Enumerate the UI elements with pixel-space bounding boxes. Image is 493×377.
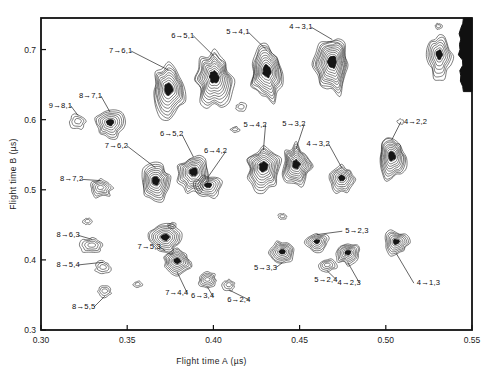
contour-island: [222, 279, 235, 291]
contour-island-unlabeled: [133, 281, 143, 288]
island-label: 7→6,2: [105, 141, 128, 150]
contour-core: [345, 250, 351, 255]
contour-island: [282, 141, 313, 187]
label-leader-line: [127, 146, 156, 168]
contour-island: [304, 234, 329, 253]
island-label: 4→3,1: [289, 22, 312, 31]
contour-island: [164, 248, 192, 276]
label-leader-line: [193, 36, 214, 57]
contour-core: [279, 249, 286, 254]
contour-level: [437, 25, 441, 28]
label-leader-line: [311, 27, 332, 39]
contour-level: [278, 214, 287, 220]
island-label: 6→5,2: [160, 129, 183, 138]
contour-level: [435, 23, 442, 29]
contour-island: [79, 237, 102, 252]
contour-level: [72, 116, 84, 126]
contour-level: [226, 282, 231, 286]
contour-island: [142, 162, 171, 202]
contour-island-unlabeled: [435, 23, 442, 29]
island-label: 9→8,1: [49, 101, 72, 110]
contour-island: [95, 110, 126, 140]
island-label: 6→2,4: [227, 295, 250, 304]
label-leader-line: [79, 235, 92, 239]
contour-level: [230, 126, 240, 132]
label-leader-line: [131, 51, 168, 70]
contour-island-unlabeled: [83, 218, 93, 224]
island-label: 8→7,2: [60, 174, 83, 183]
contour-level: [102, 289, 108, 293]
contour-core: [106, 119, 114, 125]
contour-island: [312, 39, 348, 97]
contour-island: [385, 230, 410, 256]
contour-level: [135, 283, 140, 286]
contour-level: [238, 104, 244, 109]
island-label: 8→5,5: [72, 302, 95, 311]
island-label: 4→2,2: [404, 117, 427, 126]
contour-core: [327, 56, 336, 69]
label-leader-line: [392, 122, 401, 140]
contour-island: [91, 179, 114, 199]
x-axis-title: Flight time A (µs): [176, 356, 247, 366]
contour-level: [85, 219, 90, 222]
contour-island: [177, 155, 209, 193]
x-tick-label: 0.30: [33, 335, 50, 345]
x-tick-label: 0.40: [205, 335, 222, 345]
island-label: 7→5,3: [138, 242, 161, 251]
y-tick-label: 0.3: [24, 325, 36, 335]
contour-level: [200, 273, 215, 287]
contour-level: [133, 281, 143, 288]
contour-island-unlabeled: [236, 102, 247, 111]
contour-island: [380, 138, 407, 182]
contour-level: [98, 185, 104, 189]
contour-level: [224, 281, 233, 289]
contour-island-unlabeled: [230, 126, 240, 132]
contour-level: [322, 262, 332, 269]
plot-frame: [41, 18, 472, 330]
contour-island: [251, 43, 284, 104]
label-leader-line: [396, 253, 414, 283]
contour-level: [236, 102, 247, 111]
axis-ticks-group: [41, 50, 472, 330]
x-tick-label: 0.35: [119, 335, 136, 345]
edge-artifact-group: [458, 18, 472, 92]
contour-level: [280, 215, 285, 218]
island-label: 4→1,3: [417, 278, 440, 287]
island-label: 6→5,1: [171, 31, 194, 40]
contour-level: [232, 128, 238, 131]
contour-islands-group: [69, 23, 453, 298]
island-label: 5→2,3: [345, 226, 368, 235]
island-label: 4→3,2: [306, 139, 329, 148]
island-label: 5→2,4: [314, 275, 337, 284]
label-leader-line: [82, 179, 101, 180]
label-leader-line: [328, 144, 341, 168]
contour-island: [154, 62, 186, 121]
y-tick-label: 0.4: [24, 255, 36, 265]
contour-core: [338, 175, 345, 181]
contour-core: [204, 183, 211, 188]
island-label: 8→7,1: [79, 91, 102, 100]
contour-plot: 0.300.350.400.450.500.550.30.40.50.60.7 …: [0, 0, 493, 377]
axis-tick-labels-group: 0.300.350.400.450.500.550.30.40.50.60.7: [24, 45, 480, 345]
x-tick-label: 0.45: [291, 335, 308, 345]
edge-saturation-artifact: [458, 18, 472, 92]
contour-core: [436, 50, 443, 60]
contour-island: [194, 49, 234, 109]
contour-core: [393, 239, 400, 245]
contour-level: [88, 243, 96, 247]
contour-island: [318, 259, 337, 272]
x-tick-label: 0.50: [378, 335, 395, 345]
island-label: 6→3,4: [191, 291, 214, 300]
contour-level: [85, 241, 98, 249]
contour-island: [247, 146, 282, 194]
contour-level: [100, 287, 110, 295]
contour-level: [83, 218, 93, 224]
island-label: 7→4,4: [165, 288, 188, 297]
contour-level: [203, 276, 212, 283]
contour-island: [69, 114, 86, 130]
island-label: 5→4,2: [244, 120, 267, 129]
contour-level: [75, 118, 82, 123]
contour-level: [97, 262, 109, 271]
island-label: 7→6,1: [109, 46, 132, 55]
island-label: 5→4,1: [226, 27, 249, 36]
